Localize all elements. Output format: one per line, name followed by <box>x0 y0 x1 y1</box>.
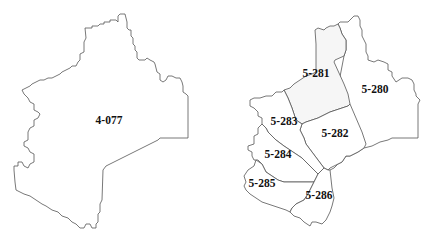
region-label-5-285: 5-285 <box>249 177 276 189</box>
map-canvas: 4-077 5-281 5-280 5-283 5-282 5-284 5-28… <box>0 0 429 240</box>
region-label-5-284: 5-284 <box>265 148 292 160</box>
region-label-5-286: 5-286 <box>306 189 333 201</box>
map-after: 5-281 5-280 5-283 5-282 5-284 5-285 5-28… <box>244 16 420 226</box>
region-label-5-280: 5-280 <box>362 83 389 95</box>
region-label-4-077: 4-077 <box>96 114 123 126</box>
region-label-5-283: 5-283 <box>271 115 298 127</box>
region-label-5-282: 5-282 <box>322 127 349 139</box>
region-label-5-281: 5-281 <box>303 67 330 79</box>
map-before: 4-077 <box>14 14 188 228</box>
